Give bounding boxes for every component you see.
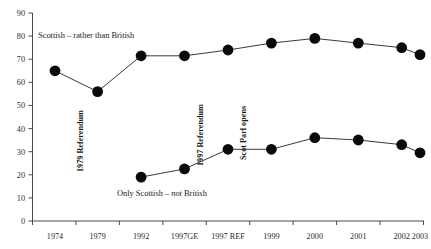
data-point	[136, 50, 147, 61]
x-tick-label: 1992	[133, 232, 149, 241]
series-line-scottish-rather-than-british	[55, 38, 420, 91]
x-tick-label: 1997 REF	[211, 232, 245, 241]
series-points-only-scottish-not-british	[136, 132, 426, 182]
y-tick-label: 90	[17, 9, 25, 18]
data-point	[309, 33, 320, 44]
x-tick-label: 1979	[89, 232, 105, 241]
y-tick-label: 70	[17, 55, 25, 64]
series-label-scottish-rather-than-british: Scottish – rather than British	[38, 31, 135, 40]
x-tick-label: 2001	[350, 232, 366, 241]
series-points-scottish-rather-than-british	[50, 33, 426, 97]
y-tick-label: 40	[17, 125, 25, 134]
y-axis-ticks	[29, 13, 33, 221]
chart-plot-area: 0 10 20 30 40 50 60 70 80 90 1974	[0, 0, 431, 249]
x-tick-label: 2002	[394, 232, 410, 241]
data-point	[396, 139, 407, 150]
data-point	[266, 144, 277, 155]
event-annotation-scot-parl-opens: Scot Parl opens	[239, 106, 248, 160]
data-point	[415, 147, 426, 158]
lower-label-italic: not	[171, 189, 182, 198]
x-tick-label: 1974	[47, 232, 63, 241]
x-tick-label: 1999	[263, 232, 279, 241]
y-tick-label: 50	[17, 101, 25, 110]
x-tick-label: 1997GE	[171, 232, 198, 241]
y-tick-label: 0	[21, 217, 25, 226]
y-tick-label: 10	[17, 194, 25, 203]
event-annotation-1997-referendum: 1997 Referendum	[196, 104, 205, 166]
y-tick-label: 20	[17, 171, 25, 180]
data-point	[266, 38, 277, 49]
series-label-only-scottish-not-british: Only Scottish – not British	[117, 189, 208, 198]
event-annotation-1979-referendum: 1979 Referendum	[76, 110, 85, 172]
data-point	[309, 132, 320, 143]
data-point	[92, 86, 103, 97]
y-axis-tick-labels: 0 10 20 30 40 50 60 70 80 90	[17, 9, 25, 226]
data-point	[415, 49, 426, 60]
data-point	[136, 172, 147, 183]
data-point	[353, 135, 364, 146]
lower-label-part1: Only Scottish –	[117, 189, 171, 198]
y-tick-label: 60	[17, 78, 25, 87]
lower-label-part2: British	[182, 189, 208, 198]
line-chart: 0 10 20 30 40 50 60 70 80 90 1974	[0, 0, 431, 249]
x-axis-ticks	[33, 221, 424, 225]
x-tick-label: 2003	[412, 232, 428, 241]
data-point	[50, 65, 61, 76]
y-tick-label: 30	[17, 148, 25, 157]
data-point	[396, 42, 407, 53]
data-point	[179, 50, 190, 61]
data-point	[353, 38, 364, 49]
x-axis-tick-labels: 1974 1979 1992 1997GE 1997 REF 1999 2000…	[47, 232, 428, 241]
data-point	[223, 45, 234, 56]
data-point	[223, 144, 234, 155]
data-point	[179, 164, 190, 175]
y-tick-label: 80	[17, 32, 25, 41]
x-tick-label: 2000	[307, 232, 323, 241]
